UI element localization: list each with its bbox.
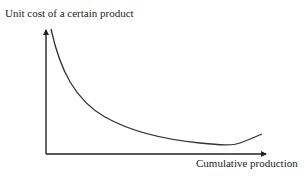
x-axis-label: Cumulative production [196,157,298,170]
unit-cost-curve [51,29,262,145]
chart-plot-area [0,0,305,178]
